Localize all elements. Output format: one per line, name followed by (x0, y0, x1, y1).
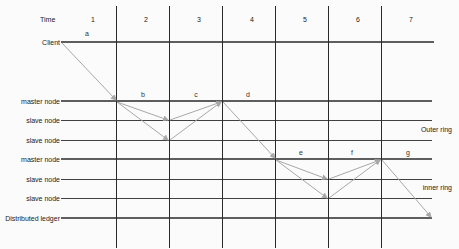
sequence-diagram: Time 1 2 3 4 5 6 7 Client master node sl… (0, 0, 459, 249)
row-label-client: Client (42, 39, 60, 46)
arrow-master-1-to-slave-1a (117, 102, 168, 120)
row-label-ledger: Distributed ledger (5, 215, 61, 223)
step-label-f: f (351, 149, 353, 156)
arrow-client-to-master-1 (62, 43, 116, 100)
time-slot-7: 7 (409, 16, 413, 23)
row-label-master-1: master node (21, 98, 60, 105)
row-label-slave-2a: slave node (26, 176, 60, 183)
arrow-master-2-to-slave-2b (276, 160, 327, 198)
message-arrows (62, 43, 431, 217)
time-slot-5: 5 (303, 16, 307, 23)
arrow-slave-2b-to-master-2 (329, 160, 380, 198)
time-slot-1: 1 (91, 16, 95, 23)
time-slot-2: 2 (144, 16, 148, 23)
step-label-e: e (299, 149, 303, 156)
step-label-b: b (141, 91, 145, 98)
time-slot-4: 4 (250, 16, 254, 23)
time-slot-3: 3 (197, 16, 201, 23)
row-label-master-2: master node (21, 156, 60, 163)
inner-ring-label: inner ring (423, 184, 452, 192)
arrow-master-1-to-master-2 (223, 102, 275, 158)
step-label-a: a (85, 30, 89, 37)
time-slot-6: 6 (356, 16, 360, 23)
arrow-master-1-to-slave-1b (117, 102, 168, 140)
row-label-slave-2b: slave node (26, 195, 60, 202)
arrow-master-2-to-slave-2a (276, 160, 327, 179)
row-label-slave-1a: slave node (26, 117, 60, 124)
row-label-slave-1b: slave node (26, 137, 60, 144)
step-label-d: d (246, 91, 250, 98)
step-label-c: c (194, 91, 198, 98)
arrow-slave-1a-to-master-1 (170, 102, 221, 120)
outer-ring-label: Outer ring (421, 126, 452, 134)
arrow-slave-2a-to-master-2 (329, 160, 380, 179)
step-label-g: g (406, 149, 410, 157)
arrow-slave-1b-to-master-1 (170, 102, 221, 140)
time-header-label: Time (40, 16, 55, 23)
